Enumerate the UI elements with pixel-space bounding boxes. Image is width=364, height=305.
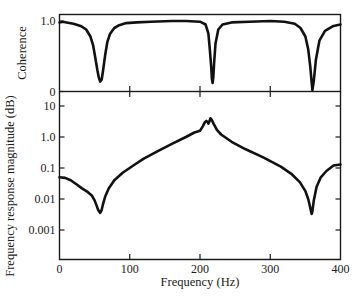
fr-y-ticks: 101.00.10.010.001	[29, 99, 341, 237]
x-tick-label: 300	[261, 262, 279, 276]
frequency-response-panel: 101.00.10.010.001 0100200300400 Frequenc…	[3, 92, 350, 290]
x-tick-label: 100	[121, 262, 139, 276]
coherence-panel: 01.0 Coherence	[15, 14, 341, 99]
frequency-response-curve	[60, 118, 341, 214]
x-tick-label: 0	[57, 262, 63, 276]
y-tick-label: 1.0	[41, 130, 56, 144]
y-tick-label: 10	[44, 99, 56, 113]
y-tick-label: 0	[50, 85, 56, 99]
coherence-curve	[60, 21, 341, 90]
x-tick-label: 400	[332, 262, 350, 276]
fr-x-ticks: 0100200300400	[57, 254, 350, 276]
coherence-y-label: Coherence	[15, 26, 29, 80]
fr-plot-frame	[60, 92, 341, 260]
x-tick-label: 200	[191, 262, 209, 276]
x-axis-label: Frequency (Hz)	[161, 275, 240, 289]
y-tick-label: 0.01	[35, 192, 56, 206]
y-tick-label: 0.001	[29, 223, 56, 237]
chart: 01.0 Coherence 101.00.10.010.001 0100200…	[0, 0, 364, 305]
fr-y-label: Frequency response magnitude (dB)	[3, 95, 17, 277]
y-tick-label: 0.1	[41, 161, 56, 175]
y-tick-label: 1.0	[41, 14, 56, 28]
